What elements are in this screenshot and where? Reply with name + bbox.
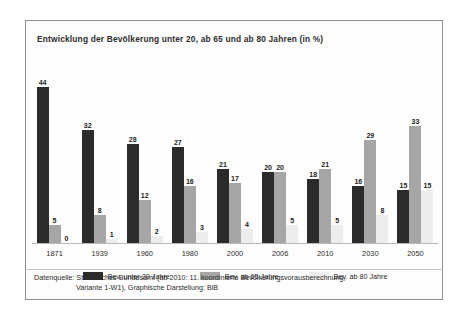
bar [82,130,94,243]
chart-frame: Entwicklung der Bevölkerung unter 20, ab… [25,20,443,300]
bar [286,225,298,243]
bar-value-label: 28 [126,136,140,143]
bar [139,200,151,243]
x-axis-tick-labels: 187119391960198020002006201020302050 [32,249,438,261]
bar-value-label: 3 [195,224,209,231]
bar [397,190,409,243]
bar-value-label: 8 [93,207,107,214]
bar [172,147,184,243]
bar-value-label: 17 [228,175,242,182]
bar-group: 27163 [168,80,212,243]
bar-value-label: 0 [60,235,74,242]
bar-value-label: 21 [216,161,230,168]
bar-group: 3281 [78,80,122,243]
bar-value-label: 5 [330,217,344,224]
bar-group: 153315 [393,80,437,243]
bar [274,172,286,243]
bar-value-label: 15 [420,182,434,189]
bar-value-label: 16 [351,178,365,185]
bar-group: 21174 [213,80,257,243]
bar [364,140,376,243]
source-note-line-1: Datenquelle: Statistisches Bundesamt (ab… [34,273,436,283]
bar-value-label: 2 [150,228,164,235]
bar [151,236,163,243]
source-note-line-2: Variante 1-W1), Graphische Darstellung: … [34,283,436,293]
bar [319,169,331,243]
bar-value-label: 27 [171,139,185,146]
x-tick-label: 2050 [393,249,437,258]
bar-value-label: 12 [138,192,152,199]
bar-group: 20205 [258,80,302,243]
x-tick-label: 1871 [33,249,77,258]
bar [184,186,196,243]
chart-title: Entwicklung der Bevölkerung unter 20, ab… [37,34,323,44]
bar-value-label: 4 [240,221,254,228]
x-tick-label: 1939 [78,249,122,258]
bar [331,225,343,243]
bar-value-label: 21 [318,161,332,168]
bar-group: 18215 [303,80,347,243]
bar-value-label: 16 [183,178,197,185]
bar-value-label: 33 [408,118,422,125]
bar-value-label: 18 [306,171,320,178]
bar-value-label: 20 [273,164,287,171]
bar [307,179,319,243]
axis-baseline [32,243,438,244]
bar [376,215,388,243]
bar-value-label: 5 [48,217,62,224]
bar-group: 4450 [33,80,77,243]
bar-value-label: 29 [363,132,377,139]
bar-value-label: 8 [375,207,389,214]
bar [241,229,253,243]
plot-area: 4450328128122271632117420205182151629815… [32,59,438,244]
bar-value-label: 15 [396,182,410,189]
x-tick-label: 2030 [348,249,392,258]
x-tick-label: 1980 [168,249,212,258]
bar [421,190,433,243]
bar [262,172,274,243]
bar [196,232,208,243]
bar-group: 16298 [348,80,392,243]
x-tick-label: 2010 [303,249,347,258]
bar [106,239,118,243]
x-tick-label: 1960 [123,249,167,258]
x-tick-label: 2000 [213,249,257,258]
bar-value-label: 1 [105,231,119,238]
x-tick-label: 2006 [258,249,302,258]
bar-value-label: 44 [36,79,50,86]
source-note: Datenquelle: Statistisches Bundesamt (ab… [34,273,436,294]
bar-group: 28122 [123,80,167,243]
bar-value-label: 32 [81,122,95,129]
bar [229,183,241,243]
bar-value-label: 5 [285,217,299,224]
bar [352,186,364,243]
bar [94,215,106,243]
